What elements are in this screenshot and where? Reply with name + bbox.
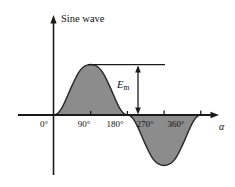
x-axis-label: α bbox=[219, 121, 224, 132]
amplitude-label: Em bbox=[117, 79, 129, 92]
x-tick-label-90: 90° bbox=[78, 119, 91, 129]
x-tick-label-0: 0° bbox=[40, 119, 48, 129]
y-axis bbox=[50, 15, 56, 175]
amplitude-subscript: m bbox=[123, 83, 129, 92]
x-tick-label-180: 180° bbox=[106, 119, 123, 129]
sine-wave-figure: Sine wave α 0° 90° 180° 270° 360° Em bbox=[0, 0, 235, 187]
sine-wave-plot bbox=[0, 0, 235, 187]
chart-title: Sine wave bbox=[61, 13, 104, 24]
x-tick-label-270: 270° bbox=[136, 119, 153, 129]
x-tick-label-360: 360° bbox=[167, 119, 184, 129]
amplitude-arrow bbox=[135, 66, 141, 115]
